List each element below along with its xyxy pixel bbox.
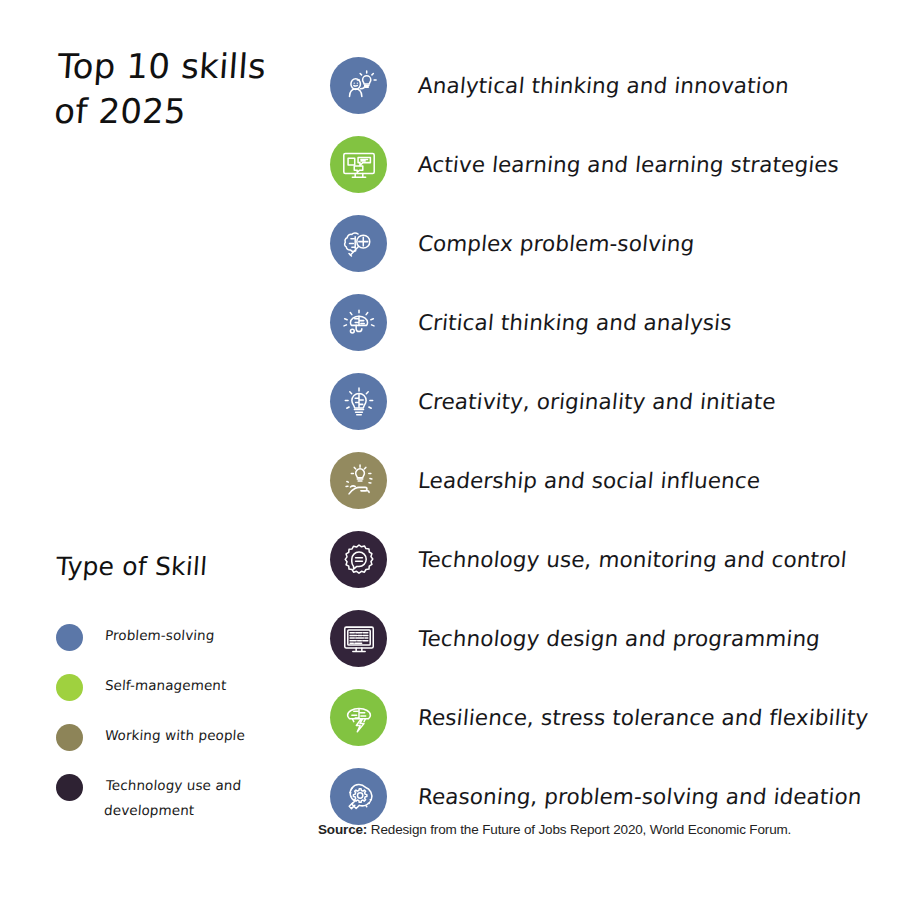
self-management-swatch xyxy=(56,674,83,701)
legend-item-working-with-people: Working with people xyxy=(56,723,324,751)
skill-row: Complex problem-solving xyxy=(330,204,890,283)
legend-item-technology-use: Technology use and development xyxy=(56,773,324,823)
skill-label: Complex problem-solving xyxy=(417,231,696,257)
brain-magnifier-icon xyxy=(330,215,387,272)
skill-label: Analytical thinking and innovation xyxy=(417,73,790,99)
lightbulb-brain-icon xyxy=(330,373,387,430)
problem-solving-swatch xyxy=(56,624,83,651)
skill-row: Active learning and learning strategies xyxy=(330,125,890,204)
skill-label: Active learning and learning strategies xyxy=(417,152,840,178)
monitor-chat-icon xyxy=(330,136,387,193)
brain-rays-icon xyxy=(330,294,387,351)
legend-item-problem-solving: Problem-solving xyxy=(56,623,324,651)
skill-label: Critical thinking and analysis xyxy=(417,310,733,336)
legend-item-self-management: Self-management xyxy=(56,673,324,701)
legend-item-label: Problem-solving xyxy=(104,623,215,648)
legend: Type of Skill Problem-solving Self-manag… xyxy=(56,552,324,845)
skill-label: Reasoning, problem-solving and ideation xyxy=(417,784,863,810)
skill-row: Technology design and programming xyxy=(330,599,890,678)
page-title: Top 10 skills of 2025 xyxy=(53,44,329,134)
skill-row: Creativity, originality and initiate xyxy=(330,362,890,441)
skill-list: Analytical thinking and innovation Activ… xyxy=(330,46,890,836)
skill-label: Technology use, monitoring and control xyxy=(417,547,848,573)
hand-lightbulb-icon xyxy=(330,452,387,509)
left-column: Top 10 skills of 2025 Type of Skill Prob… xyxy=(56,44,326,844)
skill-row: Critical thinking and analysis xyxy=(330,283,890,362)
legend-item-label: Self-management xyxy=(104,673,227,698)
legend-title: Type of Skill xyxy=(55,552,325,581)
head-lightbulb-icon xyxy=(330,57,387,114)
skill-row: Technology use, monitoring and control xyxy=(330,520,890,599)
gear-speech-icon xyxy=(330,531,387,588)
source-text: Redesign from the Future of Jobs Report … xyxy=(367,822,791,837)
skill-row: Leadership and social influence xyxy=(330,441,890,520)
skill-label: Leadership and social influence xyxy=(417,468,761,494)
working-with-people-swatch xyxy=(56,724,83,751)
lightbulb-gear-icon xyxy=(330,768,387,825)
skill-label: Technology design and programming xyxy=(417,626,821,652)
legend-item-label: Technology use and development xyxy=(103,773,281,823)
skill-label: Creativity, originality and initiate xyxy=(417,389,777,415)
skill-label: Resilience, stress tolerance and flexibi… xyxy=(417,705,869,731)
source-label: Source: xyxy=(318,822,367,837)
technology-use-swatch xyxy=(56,774,83,801)
skill-row: Analytical thinking and innovation xyxy=(330,46,890,125)
source-note: Source: Redesign from the Future of Jobs… xyxy=(318,822,791,837)
skill-row: Resilience, stress tolerance and flexibi… xyxy=(330,678,890,757)
legend-item-label: Working with people xyxy=(104,723,246,748)
brain-bolt-icon xyxy=(330,689,387,746)
monitor-code-icon xyxy=(330,610,387,667)
